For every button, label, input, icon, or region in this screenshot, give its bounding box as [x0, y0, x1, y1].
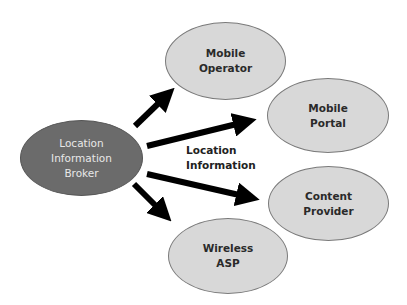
node-content-provider: Content Provider — [268, 166, 389, 241]
node-label-line: Content — [303, 189, 353, 204]
node-wireless-asp: Wireless ASP — [168, 218, 288, 294]
arrow-to-wireless-asp — [134, 184, 163, 213]
node-label-line: Wireless — [203, 241, 254, 256]
arrow-to-mobile-operator — [135, 96, 166, 126]
edge-label-line: Location — [186, 143, 256, 158]
node-label-line: ASP — [203, 256, 254, 271]
node-label-line: Mobile — [199, 46, 252, 61]
node-label-line: Mobile — [308, 101, 348, 116]
node-label-line: Information — [51, 151, 112, 166]
node-label-line: Portal — [308, 116, 348, 131]
node-location-information-broker: Location Information Broker — [20, 120, 143, 196]
node-label-line: Provider — [303, 204, 353, 219]
edge-label-location-information: Location Information — [186, 143, 256, 173]
node-label-line: Broker — [51, 166, 112, 181]
node-mobile-operator: Mobile Operator — [165, 22, 286, 100]
arrow-to-content-provider — [147, 174, 248, 197]
node-label-line: Operator — [199, 61, 252, 76]
node-mobile-portal: Mobile Portal — [267, 78, 389, 153]
edge-label-line: Information — [186, 158, 256, 173]
node-label-line: Location — [51, 136, 112, 151]
